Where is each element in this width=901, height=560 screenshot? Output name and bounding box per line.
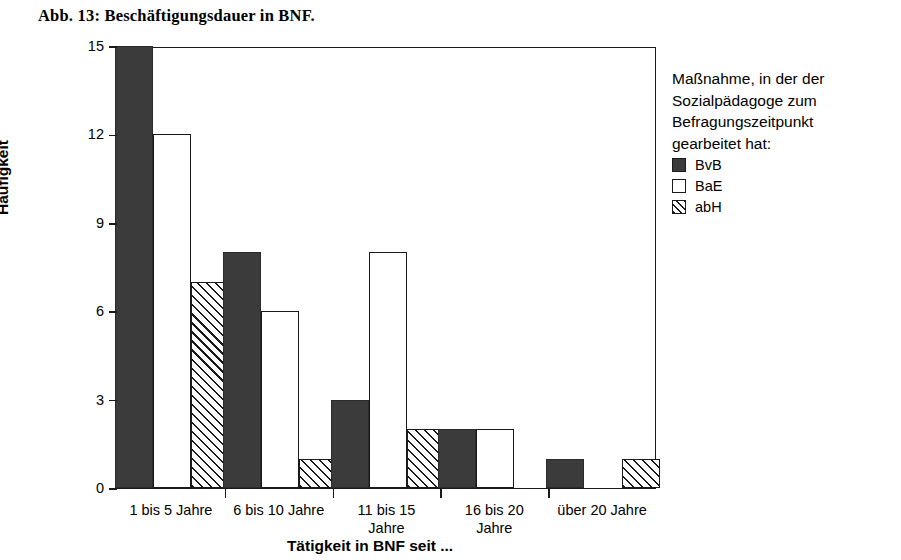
chart-legend: Maßnahme, in der der Sozialpädagoge zum …: [672, 68, 887, 217]
y-axis-title: Häufigkeit: [0, 55, 12, 215]
x-axis-tick-mark: [440, 489, 442, 498]
bar-bvb-4: [546, 459, 584, 488]
bar-bae-1: [261, 311, 299, 488]
y-axis-tick-mark: [109, 135, 117, 137]
x-axis-tick-mark: [333, 489, 335, 498]
legend-item-label: BvB: [695, 157, 722, 173]
y-axis-tick-mark: [109, 400, 117, 402]
y-axis-tick-label: 6: [96, 302, 104, 321]
bar-bae-3: [476, 429, 514, 488]
legend-item-label: abH: [695, 199, 722, 215]
bar-bae-2: [369, 252, 407, 488]
legend-item-bvb[interactable]: BvB: [672, 155, 887, 175]
y-axis-tick-mark: [109, 311, 117, 313]
legend-item-bae[interactable]: BaE: [672, 176, 887, 196]
bar-bvb-2: [331, 400, 369, 488]
bar-bae-0: [153, 134, 191, 488]
x-axis-title: Tätigkeit in BNF seit ...: [0, 537, 740, 555]
chart-plot-frame: [117, 47, 656, 489]
y-axis-tick-mark: [109, 46, 117, 48]
bar-abh-4: [622, 459, 660, 488]
y-axis-tick-mark: [109, 488, 117, 490]
legend-item-abh[interactable]: abH: [672, 197, 887, 217]
legend-swatch-abh-icon: [672, 200, 686, 214]
x-axis-tick-mark: [548, 489, 550, 498]
legend-swatch-bvb-icon: [672, 158, 686, 172]
bar-bvb-0: [115, 46, 153, 488]
legend-swatch-bae-icon: [672, 179, 686, 193]
legend-title: Maßnahme, in der der Sozialpädagoge zum …: [672, 68, 887, 154]
legend-entries: BvBBaEabH: [672, 155, 887, 217]
y-axis-tick-label: 12: [88, 125, 104, 144]
y-axis-tick-label: 15: [88, 37, 104, 56]
x-axis-tick-label: über 20 Jahre: [538, 501, 666, 519]
chart-plot-area: [118, 48, 655, 488]
bar-bvb-3: [438, 429, 476, 488]
y-axis-tick-label: 3: [96, 391, 104, 410]
x-axis-tick-mark: [225, 489, 227, 498]
bar-bvb-1: [223, 252, 261, 488]
figure-caption: Abb. 13: Beschäftigungsdauer in BNF.: [38, 6, 315, 26]
y-axis-tick-label: 9: [96, 214, 104, 233]
y-axis-tick-label: 0: [96, 479, 104, 498]
legend-item-label: BaE: [695, 178, 722, 194]
y-axis-tick-mark: [109, 223, 117, 225]
